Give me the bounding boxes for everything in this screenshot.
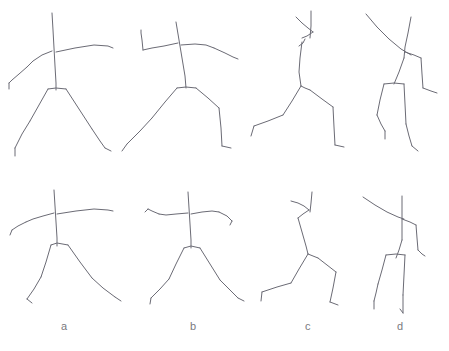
figure-bottom-d-left-leg-upper bbox=[378, 255, 386, 284]
figure-top-b-right-leg-upper bbox=[196, 88, 219, 108]
panel-label-c: c bbox=[305, 321, 311, 332]
figure-top-c-back-foot bbox=[251, 126, 254, 136]
figure-top-a-left-arm-upper bbox=[27, 51, 52, 67]
figure-top-c-raised-arm-lower bbox=[302, 32, 313, 38]
figure-bottom-a-left-leg-upper bbox=[41, 245, 51, 277]
figure-top-d-torso-lower bbox=[394, 58, 404, 84]
panel-label-a: a bbox=[61, 321, 67, 332]
figure-top-c-back-leg-lower bbox=[254, 115, 283, 126]
figure-bottom-b-left-forearm bbox=[148, 209, 159, 214]
figure-bottom-a-left-hand bbox=[10, 230, 12, 235]
figure-bottom-a-left-forearm bbox=[12, 222, 26, 230]
figure-top-a-right-leg-upper bbox=[66, 89, 92, 129]
figure-bottom-a-right-leg-lower bbox=[92, 278, 115, 297]
figure-bottom-d-left-leg-lower bbox=[374, 284, 378, 301]
figure-top-a-left-forearm bbox=[9, 67, 27, 83]
figure-bottom-c-raised-arm-lower bbox=[298, 210, 309, 218]
figure-bottom-c-hip-joint bbox=[308, 254, 318, 258]
figure-bottom-b-right-leg-lower bbox=[220, 280, 238, 298]
figure-top-b-right-leg-lower bbox=[219, 108, 222, 146]
figure-top-a-hip-bar bbox=[48, 88, 66, 89]
figure-bottom-b-left-upper-arm bbox=[159, 213, 188, 215]
figure-bottom-a-right-arm bbox=[57, 209, 113, 214]
figure-bottom-c-back-leg-upper bbox=[291, 254, 308, 283]
figure-top-b-left-forearm bbox=[141, 30, 143, 50]
figure-bottom-b-spine-head-axis bbox=[188, 192, 191, 248]
figure-bottom-b-right-hand bbox=[230, 221, 232, 225]
figure-top-d-right-foot bbox=[412, 146, 418, 151]
figure-bottom-c-torso bbox=[298, 218, 308, 254]
figure-top-d-far-arm-lower bbox=[421, 58, 423, 88]
figure-bottom-c-front-foot bbox=[330, 302, 338, 305]
figure-bottom-b bbox=[145, 192, 244, 304]
figure-top-b-left-leg-lower bbox=[127, 118, 152, 144]
figure-top-c-raised-arm-upper bbox=[296, 17, 313, 32]
figure-top-d-right-leg-lower bbox=[406, 124, 412, 146]
figure-bottom-b-right-forearm bbox=[219, 212, 232, 221]
figure-bottom-a-left-arm-upper bbox=[26, 213, 54, 222]
figure-bottom-d-sweeping-arm bbox=[363, 197, 404, 219]
figure-top-d-right-leg-upper bbox=[404, 84, 406, 124]
figure-top-a bbox=[9, 13, 113, 156]
figure-bottom-a-right-leg-upper bbox=[68, 245, 92, 278]
figure-bottom-a-spine-head-axis bbox=[54, 190, 57, 246]
figure-bottom-d bbox=[363, 196, 425, 313]
figure-bottom-d-right-leg-upper bbox=[403, 255, 405, 295]
figure-bottom-a-left-foot bbox=[27, 299, 32, 303]
figure-top-b-right-forearm bbox=[214, 48, 238, 59]
figure-bottom-b-left-leg-lower bbox=[151, 279, 169, 298]
figure-top-b bbox=[122, 22, 238, 151]
figure-top-c-torso bbox=[299, 42, 302, 86]
figure-top-c-front-leg-upper bbox=[310, 90, 333, 107]
figure-top-b-right-upper-arm bbox=[181, 44, 214, 48]
figure-top-d-sweeping-arm bbox=[366, 14, 411, 55]
figure-top-b-right-foot bbox=[222, 146, 231, 148]
figure-bottom-d-torso-lower bbox=[396, 240, 402, 258]
figure-top-c bbox=[251, 11, 344, 147]
figure-bottom-b-hip-bar bbox=[184, 246, 200, 248]
figure-top-a-left-leg-lower bbox=[15, 121, 30, 148]
figure-bottom-d-far-arm-lower bbox=[416, 225, 418, 250]
figure-bottom-a bbox=[10, 190, 121, 303]
figure-bottom-b-right-leg-upper bbox=[200, 248, 220, 280]
figure-top-a-right-leg-lower bbox=[92, 129, 105, 148]
figure-top-a-spine-head-axis bbox=[52, 13, 56, 90]
figure-top-b-hip-bar bbox=[177, 87, 196, 88]
panel-label-d: d bbox=[397, 321, 403, 332]
figure-bottom-a-right-foot bbox=[115, 297, 121, 301]
figure-bottom-c bbox=[261, 192, 338, 305]
figure-top-c-front-foot bbox=[335, 145, 344, 147]
figure-bottom-a-left-leg-lower bbox=[27, 277, 41, 299]
stick-figure-sheet: abcd bbox=[0, 0, 449, 351]
figure-top-d bbox=[366, 14, 437, 151]
figure-top-c-front-leg-lower bbox=[333, 107, 335, 145]
figure-top-a-right-arm bbox=[56, 45, 113, 52]
figure-bottom-b-left-leg-upper bbox=[169, 248, 184, 279]
figure-top-a-left-leg-upper bbox=[30, 89, 48, 121]
figure-bottom-d-hip-bar bbox=[386, 254, 405, 255]
figure-bottom-c-back-foot bbox=[261, 292, 262, 301]
figure-bottom-b-left-foot bbox=[150, 298, 151, 304]
figure-bottom-c-back-leg-lower bbox=[262, 283, 291, 292]
figure-top-b-spine-head-axis bbox=[176, 22, 186, 88]
panel-label-b: b bbox=[190, 321, 196, 332]
figure-bottom-b-left-hand bbox=[145, 209, 148, 212]
figure-bottom-c-head-axis bbox=[310, 192, 312, 212]
figure-bottom-c-front-leg-upper bbox=[318, 258, 336, 272]
figure-bottom-a-hip-bar bbox=[51, 243, 68, 245]
figure-bottom-b-right-upper-arm bbox=[191, 211, 219, 214]
figure-top-c-back-leg-upper bbox=[283, 86, 301, 115]
figure-top-b-left-foot bbox=[122, 144, 127, 151]
figure-top-b-left-upper-arm bbox=[143, 43, 178, 50]
figure-top-d-left-leg-upper bbox=[377, 84, 384, 115]
figure-bottom-c-front-leg-lower bbox=[330, 272, 336, 302]
figure-bottom-d-far-arm-upper bbox=[402, 219, 416, 225]
figure-bottom-b-right-foot bbox=[238, 298, 244, 301]
figure-bottom-c-raised-arm-upper bbox=[291, 201, 309, 210]
figure-top-d-far-hand bbox=[423, 88, 437, 93]
figure-top-c-hip-joint bbox=[301, 86, 310, 90]
figure-top-d-far-arm-upper bbox=[405, 52, 421, 58]
figure-top-b-left-leg-upper bbox=[152, 88, 177, 118]
figure-bottom-d-far-hand bbox=[418, 250, 425, 256]
figure-canvas bbox=[0, 0, 449, 351]
